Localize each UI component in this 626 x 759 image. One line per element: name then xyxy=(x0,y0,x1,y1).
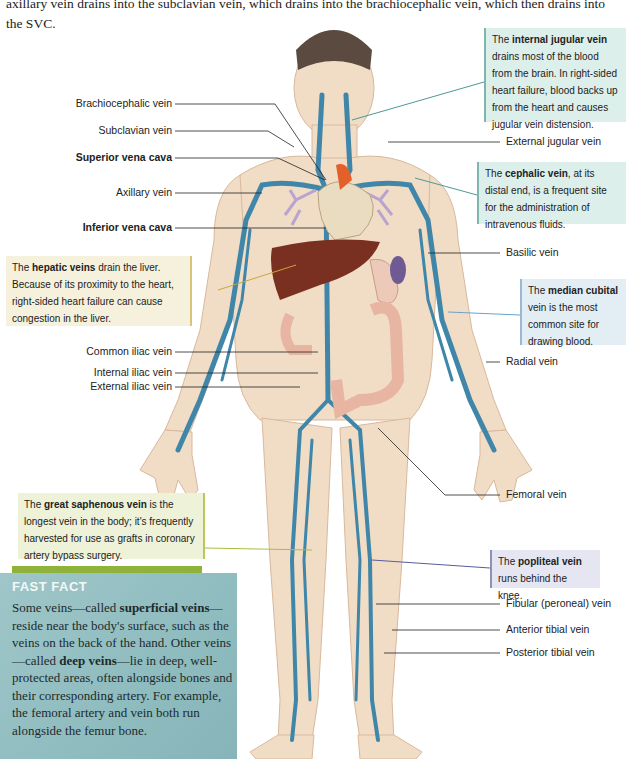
fast-fact-body: Some veins—called superficial veins—resi… xyxy=(12,599,234,739)
fast-fact-box: FAST FACT Some veins—called superficial … xyxy=(0,573,237,759)
label-superior-vena-cava: Superior vena cava xyxy=(76,151,172,163)
callout-internal-jugular-vein: The internal jugular vein drains most of… xyxy=(484,28,626,122)
callout-cephalic-vein: The cephalic vein, at its distal end, is… xyxy=(477,162,626,224)
callout-hepatic-veins: The hepatic veins drain the liver. Becau… xyxy=(6,256,192,326)
label-axillary-vein: Axillary vein xyxy=(116,186,172,198)
label-basilic-vein: Basilic vein xyxy=(506,246,559,258)
fast-fact-title: FAST FACT xyxy=(12,579,87,594)
label-brachiocephalic-vein: Brachiocephalic vein xyxy=(76,97,172,109)
callout-great-saphenous-vein: The great saphenous vein is the longest … xyxy=(18,493,205,559)
label-inferior-vena-cava: Inferior vena cava xyxy=(83,221,172,233)
label-external-iliac-vein: External iliac vein xyxy=(90,380,172,392)
label-internal-iliac-vein: Internal iliac vein xyxy=(94,366,172,378)
spleen xyxy=(390,256,406,284)
label-anterior-tibial-vein: Anterior tibial vein xyxy=(506,623,589,635)
label-subclavian-vein: Subclavian vein xyxy=(98,124,172,136)
callout-popliteal-vein: The popliteal vein runs behind the knee. xyxy=(490,550,600,588)
label-external-jugular-vein: External jugular vein xyxy=(506,135,601,147)
label-common-iliac-vein: Common iliac vein xyxy=(86,345,172,357)
callout-median-cubital-vein: The median cubital vein is the most comm… xyxy=(520,279,626,345)
label-radial-vein: Radial vein xyxy=(506,355,558,367)
label-femoral-vein: Femoral vein xyxy=(506,488,567,500)
label-posterior-tibial-vein: Posterior tibial vein xyxy=(506,646,595,658)
